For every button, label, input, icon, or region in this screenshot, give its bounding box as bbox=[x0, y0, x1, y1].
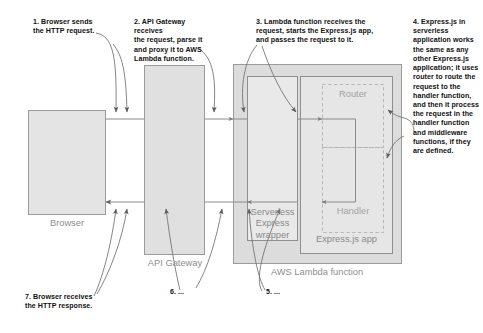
leader-step-1b bbox=[113, 44, 127, 112]
callout-step-1: 1. Browser sends the HTTP request. bbox=[33, 18, 105, 36]
serverless-wrapper-label: Serverless Express wrapper bbox=[247, 207, 298, 241]
callout-step-5: 5. ... bbox=[266, 288, 306, 297]
leader-step-1a bbox=[96, 33, 116, 112]
api-gateway-label: API Gateway bbox=[141, 258, 209, 269]
callout-step-4: 4. Express.js in serverless application … bbox=[413, 18, 479, 156]
api-gateway-box bbox=[145, 66, 205, 255]
callout-step-6: 6. ... bbox=[170, 288, 210, 297]
lambda-label: AWS Lambda function bbox=[227, 267, 407, 278]
diagram-canvas: 1. Browser sends the HTTP request. 2. AP… bbox=[0, 0, 483, 333]
callout-step-2: 2. API Gateway receives the request, par… bbox=[134, 18, 212, 64]
express-app-label: Express.js app bbox=[300, 234, 393, 245]
express-app-box bbox=[301, 77, 393, 254]
browser-label: Browser bbox=[28, 218, 106, 229]
diagram-graphics bbox=[0, 0, 483, 333]
handler-label: Handler bbox=[322, 206, 384, 217]
router-label: Router bbox=[322, 89, 384, 100]
callout-step-3: 3. Lambda function receives the request,… bbox=[256, 18, 381, 46]
browser-box bbox=[29, 111, 106, 215]
callout-step-7: 7. Browser receives the HTTP response. bbox=[25, 293, 103, 311]
